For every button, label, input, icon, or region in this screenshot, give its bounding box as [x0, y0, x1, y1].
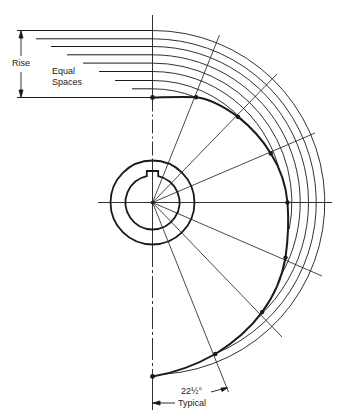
- arrow-right-icon: [221, 388, 228, 392]
- equal-label: Equal: [52, 66, 75, 76]
- angle-label: 22½°: [181, 386, 202, 396]
- arrow-up-icon: [19, 31, 23, 38]
- spaces-label: Spaces: [52, 77, 82, 87]
- rise-projection-lines: [17, 31, 153, 98]
- cam-profile-curve: [153, 97, 289, 377]
- arrow-left-icon: [153, 401, 160, 405]
- cam-points: [150, 95, 290, 379]
- cam-diagram: Rise Equal Spaces 22½° Typical: [0, 0, 344, 419]
- center-lines: [98, 15, 332, 410]
- rise-label: Rise: [12, 58, 30, 68]
- center-point: [151, 201, 155, 205]
- typical-label: Typical: [178, 398, 206, 408]
- arrow-down-icon: [19, 90, 23, 97]
- cam-drawing: [0, 0, 344, 419]
